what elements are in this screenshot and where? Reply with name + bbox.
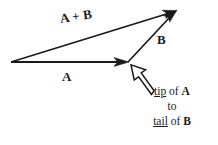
caption-keyword-tail: tail bbox=[153, 115, 168, 127]
caption-tip-of-a: tip of A bbox=[129, 86, 215, 98]
caption-vector-a: A bbox=[182, 85, 190, 97]
label-vector-a: A bbox=[62, 70, 72, 83]
caption-vector-b: B bbox=[183, 115, 191, 127]
caption-to: to bbox=[129, 101, 215, 113]
vector-diagram-figure: A + B A B tip of A to tail of B bbox=[0, 0, 218, 145]
caption-connector-of-1: of bbox=[166, 85, 181, 97]
caption-connector-of-2: of bbox=[168, 115, 183, 127]
label-vector-b: B bbox=[157, 33, 166, 46]
vector-a-arrow bbox=[11, 58, 129, 67]
caption-tail-of-b: tail of B bbox=[129, 116, 215, 128]
caption-keyword-tip: tip bbox=[154, 85, 166, 97]
